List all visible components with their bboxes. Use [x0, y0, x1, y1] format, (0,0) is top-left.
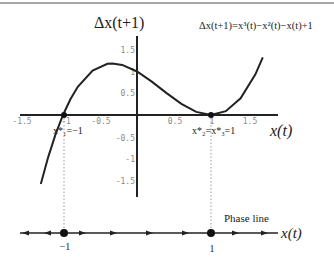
phase-point-left — [60, 229, 68, 237]
phase-point-right — [207, 229, 215, 237]
phase-diagram-figure: -1.5 -1 -0.5 0.5 1 1.5 1.5 1 0.5 -0.5 -1… — [0, 0, 334, 258]
arrow-right-icon — [110, 231, 117, 236]
phase-line-label: Phase line — [224, 212, 269, 224]
fixed-point-label-right: x*₂=x*₃=1 — [192, 125, 235, 136]
phase-point-label-right: 1 — [210, 243, 215, 254]
svg-text:-1.5: -1.5 — [116, 177, 135, 186]
arrow-right-icon — [146, 231, 153, 236]
arrow-right-icon — [182, 231, 189, 236]
svg-text:-1.5: -1.5 — [12, 117, 31, 126]
svg-text:1.5: 1.5 — [121, 46, 136, 55]
fixed-point-label-left: x*₁=−1 — [53, 125, 83, 136]
svg-text:-1: -1 — [125, 155, 135, 164]
y-axis-label: Δx(t+1) — [94, 14, 144, 32]
svg-text:-0.5: -0.5 — [116, 134, 135, 143]
fixed-point-marker-right — [208, 112, 214, 118]
svg-text:0.5: 0.5 — [168, 117, 183, 126]
phase-line — [20, 229, 278, 237]
arrow-right-icon — [232, 231, 239, 236]
svg-text:1.5: 1.5 — [243, 117, 258, 126]
arrow-right-icon — [79, 231, 86, 236]
equation-label: Δx(t+1)=x³(t)−x²(t)−x(t)+1 — [199, 20, 313, 32]
arrow-left-icon — [22, 231, 29, 236]
svg-text:0.5: 0.5 — [121, 89, 136, 98]
phase-line-axis-label: x(t) — [280, 225, 302, 242]
svg-text:-0.5: -0.5 — [91, 117, 110, 126]
arrow-right-icon — [261, 231, 268, 236]
phase-point-label-left: −1 — [60, 241, 71, 252]
arrow-left-icon — [44, 231, 51, 236]
x-axis-label: x(t) — [269, 122, 292, 140]
fixed-point-marker-left — [61, 112, 67, 118]
cubic-curve — [41, 57, 263, 184]
